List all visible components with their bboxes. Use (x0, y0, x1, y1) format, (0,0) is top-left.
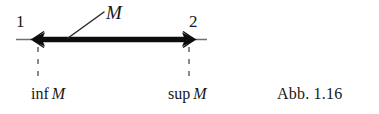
supremum-label: supM (168, 86, 207, 102)
figure-abb-1-16: 1 2 M infM supM Abb. 1.16 (0, 0, 379, 114)
endpoint-index-2: 2 (189, 13, 198, 30)
leader-line-to-set-label (68, 12, 104, 38)
infimum-set-symbol: M (49, 85, 65, 102)
infimum-operator: inf (31, 85, 49, 102)
figure-caption: Abb. 1.16 (277, 86, 342, 102)
endpoint-index-1: 1 (16, 13, 25, 30)
supremum-operator: sup (168, 85, 190, 102)
set-label-m: M (106, 3, 122, 22)
infimum-label: infM (31, 86, 65, 102)
supremum-set-symbol: M (190, 85, 206, 102)
